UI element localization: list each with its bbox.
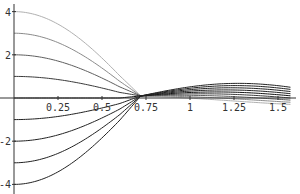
line-chart: 0.250.50.7511.251.5 -4-224 [0, 0, 300, 194]
curve-a=-4 [14, 83, 290, 184]
x-axis-ticks: 0.250.50.7511.251.5 [46, 96, 287, 113]
x-tick-label: 0.5 [93, 102, 111, 113]
y-tick-label: -4 [0, 179, 11, 190]
x-tick-label: 0.25 [46, 102, 70, 113]
x-tick-label: 1.5 [269, 102, 287, 113]
curve-a=3 [14, 33, 290, 102]
y-tick-label: 2 [5, 50, 11, 61]
y-tick-label: -2 [0, 136, 11, 147]
x-tick-label: 0.75 [134, 102, 158, 113]
x-tick-label: 1.25 [222, 102, 246, 113]
y-tick-label: 4 [5, 7, 11, 18]
x-tick-label: 1 [187, 102, 193, 113]
